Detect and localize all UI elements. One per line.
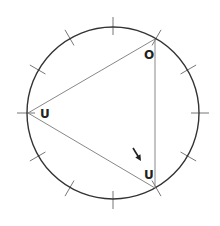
arrow-icon xyxy=(133,148,141,161)
circle xyxy=(27,27,199,199)
vertex-label-bottom-right: U xyxy=(144,168,154,182)
vertex-label-left: U xyxy=(40,107,50,121)
circle-triangle-diagram: O U U xyxy=(0,0,220,226)
vertex-label-top-right: O xyxy=(144,48,154,62)
